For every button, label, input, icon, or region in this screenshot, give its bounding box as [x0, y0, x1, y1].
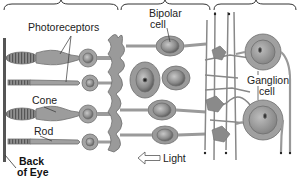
- back-of-eye-bar: [3, 38, 6, 162]
- label-cone: Cone: [32, 95, 57, 106]
- label-bipolar-line2: cell: [150, 19, 166, 30]
- label-light: Light: [163, 153, 186, 164]
- label-back-of-eye-line2: of Eye: [17, 167, 49, 178]
- label-rod: Rod: [34, 126, 53, 137]
- label-photoreceptors: Photoreceptors: [28, 22, 99, 33]
- brace-ganglion: [214, 0, 296, 10]
- photoreceptors-group: [6, 49, 112, 150]
- inner-plexiform-network: [205, 12, 255, 160]
- retina-diagram: Photoreceptors Cone Rod Back of Eye Bipo…: [0, 0, 298, 179]
- back-of-eye-pointer: [5, 155, 16, 168]
- brace-photoreceptors: [4, 0, 118, 10]
- label-ganglion-line2: cell: [259, 86, 275, 97]
- bipolar-cells: [120, 36, 206, 144]
- light-arrow-icon: [138, 152, 160, 164]
